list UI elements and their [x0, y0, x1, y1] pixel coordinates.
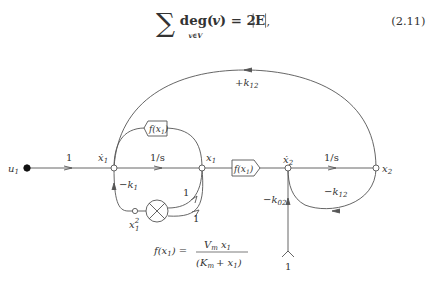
gain-1: 1: [66, 152, 72, 163]
signal-flow-graph: u1 1 ẋ1 1/s x1 ẋ2 1/s x2 +k12 −k12 −k1 −…: [0, 0, 434, 281]
gain-minus-k02: −k02: [263, 194, 287, 207]
f-loop-left: [114, 128, 145, 168]
node-x1sq: [132, 208, 137, 213]
f-block-top-label: f(x1): [148, 124, 169, 135]
gain-minus-k12: −k12: [324, 186, 348, 199]
gain-minus-k1: −k1: [119, 179, 138, 192]
label-u1: u1: [8, 163, 19, 176]
node-x1dot: [111, 165, 117, 171]
mult-gain-1a: 1: [183, 187, 189, 198]
arrow-k12-bottom: [332, 209, 340, 213]
label-x1dot: ẋ1: [98, 152, 108, 165]
arrow-k02: [286, 198, 290, 205]
label-x1-squared: x21: [129, 217, 140, 233]
source-label-1: 1: [285, 261, 291, 272]
node-u1: [24, 165, 30, 171]
arrow-k1: [112, 183, 116, 190]
node-x1: [199, 165, 205, 171]
f-block-mid-label: f(x1): [233, 164, 254, 175]
formula-numerator: Vmx1: [204, 239, 231, 252]
mult-gain-1b: 1: [193, 213, 199, 224]
label-x2dot: ẋ2: [283, 154, 294, 167]
arrow-k12-top: [244, 68, 252, 72]
gain-1-over-s-1: 1/s: [150, 152, 165, 163]
formula-denominator: (Km+ x1): [196, 257, 242, 270]
label-x2: x2: [382, 163, 393, 176]
gain-plus-k12: +k12: [235, 77, 259, 90]
gain-1-over-s-2: 1/s: [324, 152, 339, 163]
f-loop-right: [164, 128, 202, 168]
michaelis-menten-formula: f(x1) = Vmx1 (Km+ x1): [153, 239, 248, 270]
node-x2: [373, 165, 379, 171]
label-x1: x1: [206, 152, 216, 165]
formula-lhs: f(x1) =: [153, 245, 187, 258]
